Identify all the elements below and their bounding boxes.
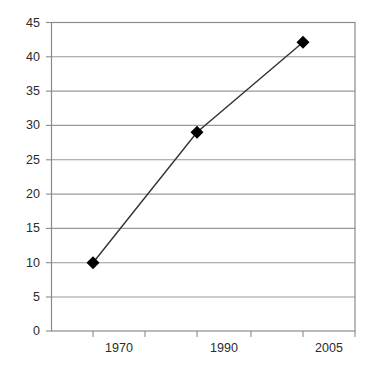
y-tick-label-40: 40 [6, 50, 40, 64]
x-axis-ticks [93, 331, 355, 337]
y-tick-label-5: 5 [6, 290, 40, 304]
y-tick-label-15: 15 [6, 221, 40, 235]
x-tick-label-1990: 1990 [189, 341, 259, 355]
y-tick-label-30: 30 [6, 118, 40, 132]
y-tick-label-10: 10 [6, 256, 40, 270]
y-tick-label-35: 35 [6, 84, 40, 98]
data-point-1970 [87, 256, 100, 269]
data-line-series-0 [93, 42, 303, 263]
data-markers [87, 36, 310, 270]
gridlines [52, 23, 356, 298]
x-tick-label-2005: 2005 [294, 341, 364, 355]
y-axis-ticks [46, 23, 52, 332]
chart-plot-area [0, 0, 370, 372]
y-tick-label-45: 45 [6, 16, 40, 30]
y-tick-label-20: 20 [6, 187, 40, 201]
line-chart: 45 40 35 30 25 20 15 10 5 0 1970 1990 20… [0, 0, 370, 372]
plot-border [52, 23, 356, 332]
y-tick-label-0: 0 [6, 324, 40, 338]
x-tick-label-1970: 1970 [84, 341, 154, 355]
y-tick-label-25: 25 [6, 153, 40, 167]
